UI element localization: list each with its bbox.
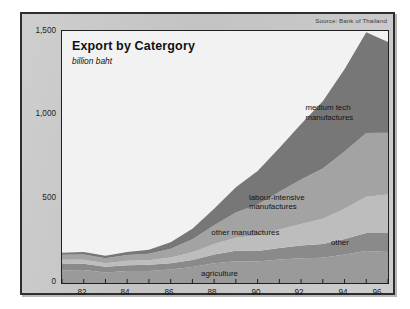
chart-subtitle: billion baht [72,56,112,66]
y-axis-tick-1000: 1,000 [22,109,56,118]
x-axis-tick-86: 86 [159,288,179,297]
chart-title: Export by Catergory [72,39,195,53]
x-axis-tick-90: 90 [246,288,266,297]
y-axis-tick-1500: 1,500 [22,26,56,35]
chart-card: Source: Bank of Thailand 1,500 1,000 500… [20,12,395,295]
x-axis-tick-82: 82 [72,288,92,297]
x-axis-tick-94: 94 [333,288,353,297]
series-label-medium-tech-line2: manufactures [305,113,353,123]
y-axis-tick-500: 500 [22,193,56,202]
series-label-agriculture: agriculture [201,269,238,279]
x-axis-tick-84: 84 [115,288,135,297]
x-axis-tick-88: 88 [202,288,222,297]
plot-area: Export by Catergory billion baht medium … [61,30,389,284]
series-label-other-manufactures: other manufactures [211,228,279,238]
x-axis-tick-92: 92 [289,288,309,297]
series-label-labour-intensive-line2: manufactures [249,202,297,212]
series-label-other: other [331,238,349,248]
x-axis-tick-96: 96 [367,288,387,297]
series-label-medium-tech-line1: medium tech [305,103,350,113]
y-axis-tick-0: 0 [22,277,56,286]
source-note: Source: Bank of Thailand [315,17,387,24]
